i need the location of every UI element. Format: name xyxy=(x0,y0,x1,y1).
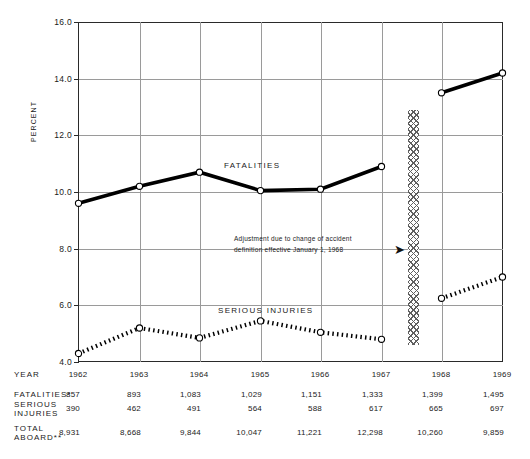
table-cell: 697 xyxy=(458,404,504,413)
series-line-fatalities-seg1 xyxy=(442,73,503,93)
chart-page: 4.06.08.010.012.014.016.0 PERCENT FATALI… xyxy=(0,0,530,459)
table-cell: 588 xyxy=(276,404,322,413)
plot-area: 4.06.08.010.012.014.016.0 PERCENT FATALI… xyxy=(78,22,503,362)
annotation-arrow-icon: ➤ xyxy=(394,243,405,256)
table-cell: 9,844 xyxy=(155,428,201,437)
table-cell: 1962 xyxy=(56,370,100,379)
data-point-serious-injuries-1968 xyxy=(438,295,444,301)
table-cell: 390 xyxy=(34,404,80,413)
table-cell: 1,029 xyxy=(216,390,262,399)
table-cell: 1968 xyxy=(419,370,463,379)
data-point-serious-injuries-1966 xyxy=(317,329,323,335)
series-label-serious-injuries: SERIOUS INJURIES xyxy=(218,306,313,315)
series-line-fatalities-seg0 xyxy=(79,167,382,204)
table-cell: 1,151 xyxy=(276,390,322,399)
y-tick-label-10.0: 10.0 xyxy=(38,187,72,197)
table-cell: 1969 xyxy=(480,370,524,379)
annotation-line-1: Adjustment due to change of accident xyxy=(234,234,352,245)
data-point-serious-injuries-1962 xyxy=(75,350,81,356)
y-tick-label-4.0: 4.0 xyxy=(38,357,72,367)
series-label-fatalities: FATALITIES xyxy=(224,161,280,170)
table-cell: 1963 xyxy=(117,370,161,379)
table-cell: 564 xyxy=(216,404,262,413)
table-cell: 10,260 xyxy=(397,428,443,437)
table-cell: 1,333 xyxy=(337,390,383,399)
data-point-fatalities-1962 xyxy=(75,200,81,206)
table-cell: 462 xyxy=(95,404,141,413)
table-cell: 1967 xyxy=(359,370,403,379)
data-point-fatalities-1968 xyxy=(438,90,444,96)
table-cell: 8,931 xyxy=(34,428,80,437)
table-cell: 665 xyxy=(397,404,443,413)
table-cell: 1966 xyxy=(298,370,342,379)
y-tick-label-16.0: 16.0 xyxy=(38,17,72,27)
y-tick-label-8.0: 8.0 xyxy=(38,244,72,254)
series-line-serious-injuries-seg0 xyxy=(79,321,382,354)
y-tick-label-6.0: 6.0 xyxy=(38,300,72,310)
table-cell: 1,399 xyxy=(397,390,443,399)
data-point-fatalities-1965 xyxy=(257,188,263,194)
data-point-serious-injuries-1963 xyxy=(136,325,142,331)
data-point-serious-injuries-1967 xyxy=(378,336,384,342)
definition-change-annotation: Adjustment due to change of accident def… xyxy=(234,234,352,255)
table-row-label: YEAR xyxy=(14,370,40,379)
table-cell: 491 xyxy=(155,404,201,413)
data-point-serious-injuries-1969 xyxy=(499,274,505,280)
table-cell: 10,047 xyxy=(216,428,262,437)
table-cell: 8,668 xyxy=(95,428,141,437)
y-tick-mark-4.0 xyxy=(74,362,79,363)
table-cell: 9,859 xyxy=(458,428,504,437)
table-cell: 1965 xyxy=(238,370,282,379)
data-point-serious-injuries-1965 xyxy=(257,318,263,324)
table-cell: 893 xyxy=(95,390,141,399)
table-cell: 857 xyxy=(34,390,80,399)
y-tick-label-12.0: 12.0 xyxy=(38,130,72,140)
table-cell: 617 xyxy=(337,404,383,413)
y-tick-label-14.0: 14.0 xyxy=(38,74,72,84)
data-point-fatalities-1969 xyxy=(499,70,505,76)
data-point-serious-injuries-1964 xyxy=(196,335,202,341)
data-point-fatalities-1964 xyxy=(196,169,202,175)
data-point-fatalities-1966 xyxy=(317,186,323,192)
data-point-fatalities-1967 xyxy=(378,163,384,169)
table-cell: 1,495 xyxy=(458,390,504,399)
series-line-serious-injuries-seg1 xyxy=(442,277,503,298)
table-cell: 12,298 xyxy=(337,428,383,437)
table-cell: 1964 xyxy=(177,370,221,379)
table-cell: 11,221 xyxy=(276,428,322,437)
y-axis-title: PERCENT xyxy=(30,101,37,142)
data-point-fatalities-1963 xyxy=(136,183,142,189)
annotation-line-2: definition effective January 1, 1968 xyxy=(234,245,352,256)
table-cell: 1,083 xyxy=(155,390,201,399)
